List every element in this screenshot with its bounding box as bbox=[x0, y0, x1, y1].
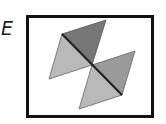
pinwheel-figure bbox=[0, 0, 166, 124]
